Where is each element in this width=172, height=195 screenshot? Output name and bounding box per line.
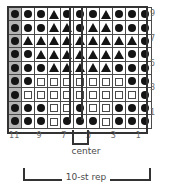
chart-cell[interactable]: [61, 101, 74, 114]
chart-cell[interactable]: [74, 61, 87, 74]
chart-cell[interactable]: [87, 21, 100, 34]
chart-cell[interactable]: [126, 61, 139, 74]
chart-cell[interactable]: [61, 61, 74, 74]
chart-cell[interactable]: [100, 8, 113, 21]
chart-cell[interactable]: [139, 21, 152, 34]
chart-cell[interactable]: [22, 115, 35, 128]
column-number-label: 11: [7, 132, 21, 140]
stitch-chart: 97531 1197531 center 10-st rep: [0, 0, 172, 195]
chart-cell[interactable]: [74, 8, 87, 21]
chart-cell[interactable]: [74, 74, 87, 87]
chart-cell[interactable]: [100, 48, 113, 61]
chart-cell[interactable]: [113, 115, 126, 128]
chart-cell[interactable]: [126, 88, 139, 101]
chart-cell[interactable]: [35, 88, 48, 101]
chart-cell[interactable]: [35, 115, 48, 128]
chart-cell[interactable]: [35, 34, 48, 47]
chart-cell[interactable]: [22, 61, 35, 74]
chart-cell[interactable]: [74, 88, 87, 101]
chart-cell[interactable]: [126, 8, 139, 21]
chart-cell[interactable]: [100, 34, 113, 47]
chart-cell[interactable]: [100, 61, 113, 74]
filled-triangle-icon: [113, 35, 125, 47]
chart-cell[interactable]: [61, 88, 74, 101]
chart-cell[interactable]: [87, 48, 100, 61]
chart-cell[interactable]: [74, 101, 87, 114]
chart-cell[interactable]: [35, 101, 48, 114]
chart-cell[interactable]: [100, 101, 113, 114]
chart-cell[interactable]: [9, 88, 22, 101]
chart-cell[interactable]: [48, 88, 61, 101]
chart-cell[interactable]: [35, 61, 48, 74]
filled-circle-icon: [35, 21, 47, 33]
chart-cell[interactable]: [126, 34, 139, 47]
chart-cell[interactable]: [126, 115, 139, 128]
chart-cell[interactable]: [22, 8, 35, 21]
chart-row: [9, 74, 152, 87]
chart-cell[interactable]: [74, 34, 87, 47]
chart-cell[interactable]: [100, 115, 113, 128]
chart-cell[interactable]: [9, 34, 22, 47]
chart-cell[interactable]: [87, 61, 100, 74]
column-number-label: 7: [57, 132, 71, 140]
chart-cell[interactable]: [48, 34, 61, 47]
chart-cell[interactable]: [74, 21, 87, 34]
chart-cell[interactable]: [61, 48, 74, 61]
chart-cell[interactable]: [113, 34, 126, 47]
chart-cell[interactable]: [61, 21, 74, 34]
chart-cell[interactable]: [9, 101, 22, 114]
chart-cell[interactable]: [35, 74, 48, 87]
chart-cell[interactable]: [87, 115, 100, 128]
chart-cell[interactable]: [48, 115, 61, 128]
chart-cell[interactable]: [61, 115, 74, 128]
chart-cell[interactable]: [126, 21, 139, 34]
chart-cell[interactable]: [35, 21, 48, 34]
chart-cell[interactable]: [100, 88, 113, 101]
chart-cell[interactable]: [113, 48, 126, 61]
chart-cell[interactable]: [87, 34, 100, 47]
chart-cell[interactable]: [48, 101, 61, 114]
chart-cell[interactable]: [87, 101, 100, 114]
chart-cell[interactable]: [9, 115, 22, 128]
chart-cell[interactable]: [100, 21, 113, 34]
chart-cell[interactable]: [100, 74, 113, 87]
chart-cell[interactable]: [9, 8, 22, 21]
chart-cell[interactable]: [48, 8, 61, 21]
filled-triangle-icon: [48, 62, 60, 74]
chart-cell[interactable]: [87, 74, 100, 87]
chart-cell[interactable]: [61, 8, 74, 21]
chart-cell[interactable]: [48, 74, 61, 87]
chart-cell[interactable]: [113, 101, 126, 114]
chart-cell[interactable]: [74, 115, 87, 128]
chart-cell[interactable]: [22, 101, 35, 114]
center-label: center: [0, 146, 172, 156]
chart-cell[interactable]: [126, 48, 139, 61]
chart-cell[interactable]: [9, 74, 22, 87]
chart-cell[interactable]: [35, 48, 48, 61]
chart-cell[interactable]: [22, 21, 35, 34]
chart-cell[interactable]: [87, 88, 100, 101]
chart-cell[interactable]: [87, 8, 100, 21]
chart-cell[interactable]: [9, 21, 22, 34]
chart-cell[interactable]: [22, 74, 35, 87]
chart-cell[interactable]: [113, 61, 126, 74]
chart-cell[interactable]: [126, 101, 139, 114]
chart-cell[interactable]: [74, 48, 87, 61]
chart-cell[interactable]: [48, 21, 61, 34]
chart-cell[interactable]: [35, 8, 48, 21]
chart-cell[interactable]: [9, 48, 22, 61]
chart-cell[interactable]: [22, 34, 35, 47]
open-square-icon: [126, 88, 138, 100]
chart-cell[interactable]: [22, 48, 35, 61]
chart-cell[interactable]: [61, 74, 74, 87]
chart-cell[interactable]: [113, 21, 126, 34]
chart-cell[interactable]: [9, 61, 22, 74]
chart-cell[interactable]: [113, 8, 126, 21]
chart-cell[interactable]: [113, 88, 126, 101]
chart-cell[interactable]: [61, 34, 74, 47]
chart-cell[interactable]: [22, 88, 35, 101]
chart-cell[interactable]: [113, 74, 126, 87]
chart-cell[interactable]: [48, 61, 61, 74]
chart-cell[interactable]: [126, 74, 139, 87]
chart-cell[interactable]: [48, 48, 61, 61]
